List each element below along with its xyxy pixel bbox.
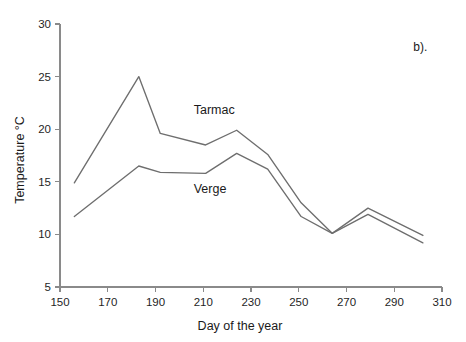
figure-panel-b: 51015202530 150170190210230250270290310 …	[0, 0, 466, 342]
x-tick-label: 230	[241, 296, 260, 308]
y-tick-label: 25	[38, 71, 51, 83]
y-axis-ticks: 51015202530	[38, 18, 60, 293]
x-tick-label: 150	[50, 296, 69, 308]
x-tick-label: 250	[289, 296, 308, 308]
y-tick-label: 15	[38, 176, 51, 188]
chart-axes	[60, 24, 442, 287]
x-axis-ticks: 150170190210230250270290310	[50, 287, 451, 308]
x-tick-label: 290	[385, 296, 404, 308]
y-tick-label: 30	[38, 18, 51, 30]
y-axis-title: Temperature °C	[13, 116, 27, 204]
annotation-verge: Verge	[194, 182, 227, 196]
x-axis-title: Day of the year	[198, 319, 283, 333]
temperature-line-chart: 51015202530 150170190210230250270290310 …	[0, 0, 466, 342]
x-tick-label: 270	[337, 296, 356, 308]
y-tick-label: 20	[38, 123, 51, 135]
series-annotations: TarmacVergeb).	[194, 40, 428, 196]
y-tick-label: 10	[38, 228, 51, 240]
y-tick-label: 5	[45, 281, 51, 293]
series-line-tarmac	[74, 77, 423, 236]
x-tick-label: 210	[194, 296, 213, 308]
x-tick-label: 190	[146, 296, 165, 308]
data-series-group	[74, 77, 423, 243]
x-tick-label: 170	[98, 296, 117, 308]
annotation-tarmac: Tarmac	[194, 103, 235, 117]
series-line-verge	[74, 153, 423, 242]
panel-label: b).	[413, 40, 427, 54]
axis-spines	[60, 24, 442, 287]
x-tick-label: 310	[432, 296, 451, 308]
